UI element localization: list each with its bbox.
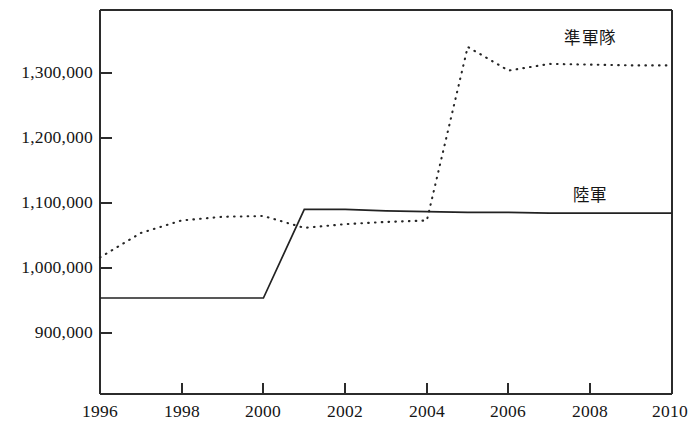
- series-annotation-army: 陸軍: [573, 186, 608, 205]
- series-line-paramilitary: [100, 47, 672, 257]
- x-axis-labels: 1996 1998 2000 2002 2004 2006 2008 2010: [82, 401, 688, 421]
- x-axis-label-2010: 2010: [652, 401, 688, 421]
- y-axis-label-1000000: 1,000,000: [21, 257, 93, 277]
- series-annotation-paramilitary: 準軍隊: [564, 29, 617, 48]
- chart-container: 1,300,000 1,200,000 1,100,000 1,000,000 …: [0, 0, 691, 439]
- y-axis-label-1300000: 1,300,000: [21, 62, 93, 82]
- y-axis-ticks: [100, 73, 112, 333]
- y-axis-label-1200000: 1,200,000: [21, 127, 93, 147]
- line-chart: 1,300,000 1,200,000 1,100,000 1,000,000 …: [0, 0, 691, 439]
- data-series-group: [100, 47, 672, 298]
- x-axis-ticks: [182, 383, 590, 394]
- series-annotations: 準軍隊 陸軍: [564, 29, 617, 205]
- x-axis-label-2004: 2004: [409, 401, 445, 421]
- y-axis-label-1100000: 1,100,000: [21, 192, 93, 212]
- y-axis-label-900000: 900,000: [35, 322, 93, 342]
- x-axis-label-2006: 2006: [490, 401, 526, 421]
- series-line-army: [100, 209, 672, 298]
- x-axis-label-2000: 2000: [245, 401, 281, 421]
- y-axis-labels: 1,300,000 1,200,000 1,100,000 1,000,000 …: [21, 62, 93, 342]
- x-axis-label-1998: 1998: [164, 401, 200, 421]
- x-axis-label-2008: 2008: [572, 401, 608, 421]
- x-axis-label-2002: 2002: [327, 401, 363, 421]
- x-axis-label-1996: 1996: [82, 401, 118, 421]
